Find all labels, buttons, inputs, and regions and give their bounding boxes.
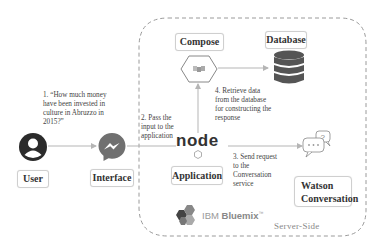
compose-hexagon-icon — [180, 55, 218, 83]
bluemix-logo-icon — [171, 203, 203, 229]
application-label: Application — [171, 166, 223, 185]
watson-conversation-label: Watson Conversation — [294, 176, 352, 207]
messenger-icon — [97, 131, 127, 163]
nodejs-icon: node — [176, 133, 219, 149]
database-icon — [273, 50, 305, 86]
user-icon — [18, 132, 48, 162]
step3-note: 3. Send request to the Conversation serv… — [233, 153, 303, 189]
bluemix-brand: IBM Bluemix™ — [202, 210, 264, 221]
step4-note: 4. Retrieve data from the database for c… — [215, 87, 305, 123]
step1-note: 1. “How much money have been invested in… — [43, 91, 143, 127]
chat-bubbles-icon: ? — [300, 130, 340, 160]
compose-label: Compose — [175, 33, 224, 51]
interface-label: Interface — [90, 169, 134, 187]
server-side-label: Server-Side — [274, 221, 320, 231]
nodejs-hex-icon — [194, 150, 202, 159]
user-label: User — [17, 170, 49, 188]
database-label: Database — [265, 31, 307, 49]
